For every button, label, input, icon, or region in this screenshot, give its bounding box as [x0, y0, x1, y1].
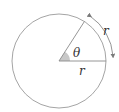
arc-label: r	[103, 24, 110, 38]
arc-arrow-icon	[90, 16, 113, 56]
radian-diagram: θ r r	[0, 0, 119, 112]
angle-label: θ	[73, 46, 81, 60]
radius-label: r	[79, 64, 86, 78]
angled-radius	[59, 22, 84, 62]
